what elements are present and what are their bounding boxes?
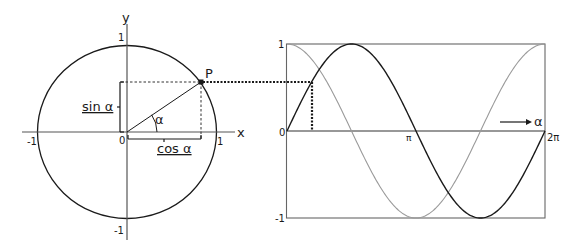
angle-label: α xyxy=(155,112,164,127)
sin-bracket xyxy=(117,82,124,132)
point-p-label: P xyxy=(205,66,213,81)
alpha-direction-arrow xyxy=(500,119,532,125)
cos-label: cos α xyxy=(157,141,192,156)
radius-line xyxy=(127,82,201,132)
y-pos-tick-label: 1 xyxy=(118,32,124,43)
graph-y-bottom-label: -1 xyxy=(275,213,285,224)
diagram-canvas: x y -1 1 1 -1 0 α P sin α xyxy=(0,0,580,245)
sin-label: sin α xyxy=(82,99,113,114)
origin-label: 0 xyxy=(119,135,125,146)
y-axis-label: y xyxy=(122,10,130,25)
wave-graph-panel: 1 0 -1 π 2π α xyxy=(275,39,559,224)
unit-circle-panel: x y -1 1 1 -1 0 α P sin α xyxy=(22,10,245,240)
graph-y-zero-label: 0 xyxy=(279,127,285,138)
diagram: x y -1 1 1 -1 0 α P sin α xyxy=(0,0,580,245)
graph-x-pi-label: π xyxy=(406,133,412,143)
graph-y-top-label: 1 xyxy=(278,39,284,50)
graph-x-2pi-label: 2π xyxy=(547,132,559,143)
y-neg-tick-label: -1 xyxy=(114,225,124,236)
x-neg-tick-label: -1 xyxy=(27,136,37,147)
x-axis-label: x xyxy=(237,125,245,140)
connector-dotted xyxy=(203,82,312,131)
graph-x-axis-label: α xyxy=(534,114,543,129)
x-pos-tick-label: 1 xyxy=(217,136,223,147)
point-p-marker xyxy=(199,80,204,85)
